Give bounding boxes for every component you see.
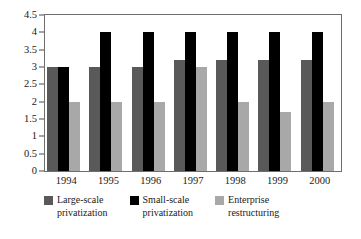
y-axis-tick-label: 0.5	[24, 148, 37, 159]
bar	[143, 32, 154, 171]
bar	[100, 32, 111, 171]
legend-swatch-icon	[44, 196, 53, 205]
bar	[227, 32, 238, 171]
legend-label: Large-scale privatization	[57, 194, 108, 219]
x-axis-tick-label: 1999	[267, 175, 288, 188]
bar	[301, 60, 312, 171]
legend-item: Small-scale privatization	[130, 194, 194, 234]
bar	[89, 67, 100, 171]
y-axis-tick-label: 2.5	[24, 79, 37, 90]
bar	[154, 102, 165, 171]
bar-group	[130, 15, 172, 171]
plot-area	[45, 15, 341, 171]
bar	[58, 67, 69, 171]
bar-group	[214, 15, 256, 171]
legend-label: Enterprise restructuring	[228, 194, 279, 219]
bar	[238, 102, 249, 171]
legend-item: Large-scale privatization	[44, 194, 108, 234]
x-axis-tick-label: 1997	[183, 175, 204, 188]
x-axis-tick-label: 1994	[56, 175, 77, 188]
legend-swatch-icon	[130, 196, 139, 205]
bar	[216, 60, 227, 171]
bar	[132, 67, 143, 171]
y-axis-tick-label: 4	[32, 27, 37, 38]
x-axis-tick-label: 1996	[140, 175, 161, 188]
y-axis-tick-label: 3.5	[24, 44, 37, 55]
bar-chart: 00.511.522.533.544.5 1994199519961997199…	[0, 0, 361, 239]
y-axis-tick-label: 0	[32, 166, 37, 177]
bar	[111, 102, 122, 171]
y-axis-tick-label: 4.5	[24, 10, 37, 21]
bar	[269, 32, 280, 171]
bar	[185, 32, 196, 171]
legend-item: Enterprise restructuring	[215, 194, 279, 234]
y-axis-tick-label: 3	[32, 62, 37, 73]
x-axis-tick-label: 1995	[98, 175, 119, 188]
y-axis-tick-label: 1	[32, 131, 37, 142]
bar	[196, 67, 207, 171]
bar-group	[256, 15, 298, 171]
x-axis: 1994199519961997199819992000	[45, 175, 341, 191]
x-axis-tick-label: 2000	[309, 175, 330, 188]
bar	[69, 102, 80, 171]
y-axis-tick-label: 2	[32, 96, 37, 107]
bar-group	[45, 15, 87, 171]
legend-swatch-icon	[215, 196, 224, 205]
bar	[174, 60, 185, 171]
bar	[323, 102, 334, 171]
y-axis-tick-label: 1.5	[24, 114, 37, 125]
bar	[258, 60, 269, 171]
y-axis: 00.511.522.533.544.5	[0, 0, 44, 186]
legend-label: Small-scale privatization	[143, 194, 194, 219]
bar-group	[87, 15, 129, 171]
bar-group	[172, 15, 214, 171]
bar	[47, 67, 58, 171]
bar-group	[299, 15, 341, 171]
x-axis-tick-label: 1998	[225, 175, 246, 188]
bar	[280, 112, 291, 171]
bar	[312, 32, 323, 171]
chart-legend: Large-scale privatizationSmall-scale pri…	[44, 194, 344, 234]
